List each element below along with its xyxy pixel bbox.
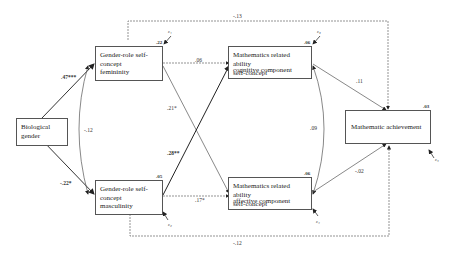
r-squared-achievement: .03 bbox=[423, 104, 429, 109]
coef-masc-cognitive: .28** bbox=[167, 150, 179, 156]
coef-cog-aff-covariance: .09 bbox=[310, 125, 317, 131]
coef-bio-masculinity: -.22* bbox=[60, 180, 71, 186]
coef-cognitive-achievement: .11 bbox=[356, 78, 363, 84]
node-label: Gender-role self- bbox=[100, 185, 158, 194]
coef-affective-achievement: -.02 bbox=[355, 168, 364, 174]
error-term-affective: ε₄ bbox=[316, 219, 320, 224]
coef-fem-masc-covariance: -.12 bbox=[84, 127, 93, 133]
node-femininity: Gender-role self- concept femininity bbox=[95, 46, 163, 81]
node-sublabel: cognitive component bbox=[233, 66, 292, 75]
r-squared-femininity: .22 bbox=[156, 40, 162, 45]
node-label: Biological bbox=[21, 123, 63, 132]
error-term-achievement: ε₅ bbox=[435, 157, 439, 162]
node-cognitive-component: Mathematics related ability self-concept… bbox=[228, 46, 312, 79]
coef-masc-achievement: -.12 bbox=[233, 240, 242, 246]
node-label: gender bbox=[21, 132, 63, 141]
r-squared-cognitive: .06 bbox=[304, 40, 310, 45]
node-label: Gender-role self- bbox=[100, 51, 158, 60]
coef-fem-affective: .21* bbox=[167, 105, 177, 111]
error-term-masculinity: ε₂ bbox=[168, 222, 172, 227]
node-label: Mathematic achievement bbox=[351, 123, 426, 132]
r-squared-masculinity: .05 bbox=[156, 174, 162, 179]
error-term-cognitive: ε₃ bbox=[317, 29, 321, 34]
node-affective-component: Mathematics related ability self-concept… bbox=[228, 177, 312, 210]
node-masculinity: Gender-role self- concept masculinity bbox=[95, 180, 163, 215]
error-term-femininity: ε₁ bbox=[168, 29, 172, 34]
node-mathematic-achievement: Mathematic achievement bbox=[345, 110, 431, 144]
node-sublabel: masculinity bbox=[100, 202, 133, 211]
node-sublabel: affective component bbox=[233, 197, 290, 206]
coef-bio-femininity: .47*** bbox=[61, 74, 76, 80]
coef-fem-cognitive: .06 bbox=[195, 57, 202, 63]
r-squared-affective: .06 bbox=[304, 171, 310, 176]
node-sublabel: femininity bbox=[100, 68, 129, 77]
coef-fem-achievement: -.13 bbox=[233, 13, 242, 19]
node-biological-gender: Biological gender bbox=[16, 118, 68, 146]
coef-masc-affective: .17* bbox=[195, 197, 205, 203]
